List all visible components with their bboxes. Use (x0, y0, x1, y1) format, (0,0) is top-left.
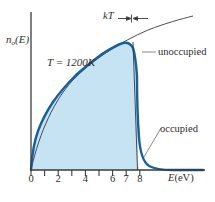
x-tick-label: 0 (28, 173, 33, 184)
y-axis-label: no(E) (6, 34, 29, 47)
x-tick-label: 2 (56, 173, 61, 184)
kt-annotation: kT (103, 11, 114, 22)
x-tick-label: 7 (124, 173, 129, 184)
temperature-annotation: T = 1200K (47, 57, 95, 68)
unoccupied-annotation: unoccupied (158, 47, 206, 58)
x-tick-label: 4 (83, 173, 88, 184)
x-tick-label: 8 (137, 173, 142, 184)
occupied-leader-line (144, 128, 161, 157)
y-axis-label-tail: (E) (15, 33, 29, 45)
x-tick-label: 6 (110, 173, 115, 184)
kt-bracket (118, 15, 148, 23)
figure-container: no(E) T = 1200K kT unoccupied occupied E… (0, 0, 215, 202)
x-axis-label: E(eV) (168, 173, 194, 184)
x-axis-label-unit: (eV) (174, 172, 193, 183)
occupied-annotation: occupied (160, 124, 198, 135)
